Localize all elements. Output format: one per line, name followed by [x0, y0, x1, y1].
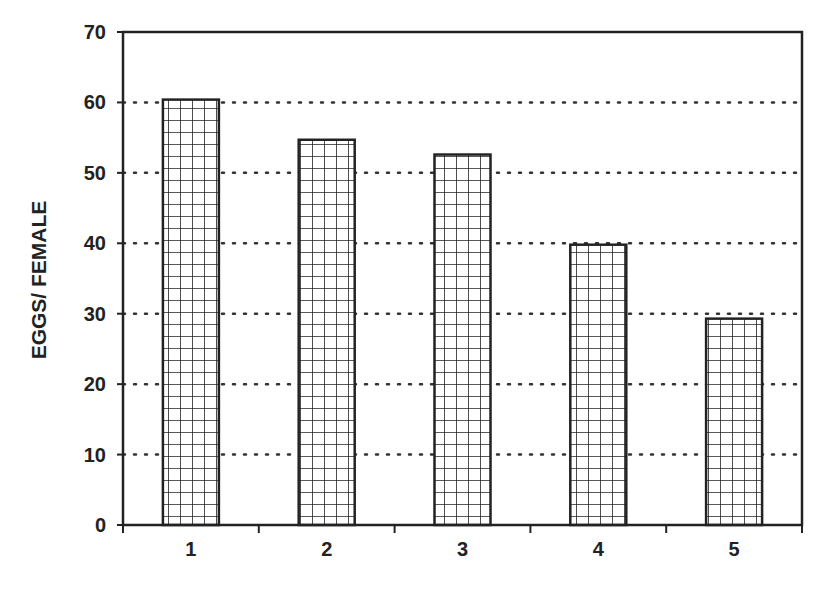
bar-2	[299, 140, 355, 525]
y-tick-label: 70	[84, 21, 106, 43]
bar-3	[435, 155, 491, 525]
bars	[163, 100, 762, 525]
y-tick-label: 10	[84, 444, 106, 466]
y-tick-label: 20	[84, 373, 106, 395]
y-tick-label: 0	[95, 514, 106, 536]
y-tick-label: 30	[84, 303, 106, 325]
x-tick-label: 2	[321, 538, 332, 560]
bar-5	[706, 319, 762, 525]
x-tick-label: 5	[729, 538, 740, 560]
bar-1	[163, 100, 219, 525]
x-axis: 12345	[123, 525, 802, 560]
x-tick-label: 4	[593, 538, 605, 560]
y-tick-label: 50	[84, 162, 106, 184]
y-axis: 010203040506070	[84, 21, 123, 536]
y-tick-label: 60	[84, 91, 106, 113]
bar-4	[570, 245, 626, 525]
y-tick-label: 40	[84, 232, 106, 254]
y-axis-title: EGGS/ FEMALE	[27, 201, 50, 360]
x-tick-label: 1	[185, 538, 196, 560]
bar-chart: 010203040506070 12345 EGGS/ FEMALE	[0, 0, 820, 603]
x-tick-label: 3	[457, 538, 468, 560]
